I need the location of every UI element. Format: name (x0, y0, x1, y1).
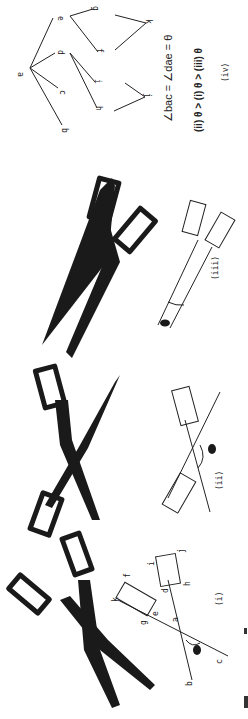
label-k-i: k (111, 597, 120, 602)
label-j: j (143, 93, 152, 98)
label-e: e (56, 16, 65, 21)
equation-angles: ∠bac = ∠dae = θ (162, 35, 174, 122)
label-c-i: c (215, 659, 224, 664)
label-h: h (94, 106, 103, 111)
label-j-i: j (177, 548, 186, 553)
label-h-i: h (183, 581, 192, 586)
label-c: c (58, 90, 67, 95)
label-e-i: e (151, 611, 160, 616)
label-b: b (60, 128, 69, 133)
label-a: a (16, 72, 25, 77)
panel-iv-label: (iv) (221, 63, 230, 82)
panel-iii-schematic: (iii) (158, 200, 235, 328)
theta-iii (160, 320, 170, 327)
panel-i-scissors (9, 533, 155, 708)
panel-ii-schematic: (ii) (162, 386, 224, 513)
label-f-i: f (123, 573, 132, 578)
panel-iv-diagram: a b c d e g f i h j k (16, 6, 153, 133)
panel-ii-label: (ii) (215, 471, 224, 490)
edge-mark (244, 696, 248, 708)
label-d: d (56, 50, 65, 55)
edge-mark (244, 628, 247, 634)
label-b-i: b (185, 681, 194, 686)
label-d-i: d (161, 588, 170, 593)
theta-ii (208, 444, 216, 454)
label-a-i: a (171, 617, 180, 622)
label-k: k (144, 19, 153, 24)
label-g-i: g (139, 620, 148, 625)
panel-i-label: (i) (215, 592, 224, 606)
panel-iii-scissors (42, 178, 156, 358)
scissors-angle-figure: a b c d e g f i h j k ∠bac = ∠dae = θ (i… (0, 0, 248, 719)
label-i-i: i (147, 561, 156, 566)
label-i: i (93, 79, 102, 84)
equation-comparison: (ii) θ > (i) θ > (iii) θ (193, 48, 204, 132)
panel-iii-label: (iii) (211, 256, 220, 280)
theta-i (193, 645, 201, 655)
label-f: f (95, 48, 104, 53)
label-g: g (91, 6, 100, 11)
panel-ii-scissors (30, 366, 120, 535)
